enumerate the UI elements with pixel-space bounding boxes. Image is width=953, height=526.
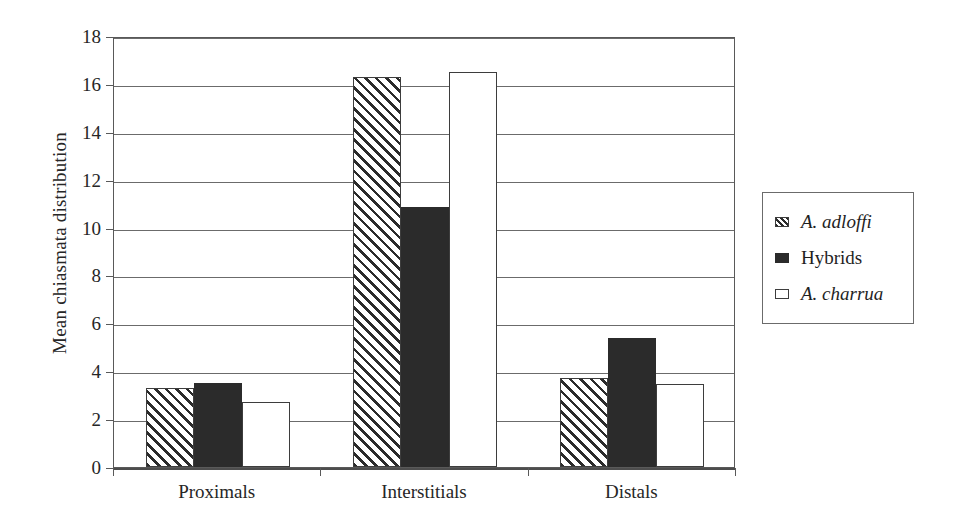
bar — [656, 384, 704, 467]
open-swatch-icon — [775, 289, 789, 299]
gridline — [114, 86, 734, 87]
bar — [449, 72, 497, 467]
bar — [560, 378, 608, 467]
chart-figure: Mean chiasmata distribution 024681012141… — [0, 0, 953, 526]
bar — [194, 383, 242, 467]
legend-item: A. adloffi — [775, 204, 903, 240]
legend-item: Hybrids — [775, 240, 903, 276]
hatched-swatch-icon — [775, 217, 789, 227]
y-axis-tick-mark — [106, 229, 113, 230]
y-axis-tick-label: 2 — [57, 410, 101, 429]
bar — [608, 338, 656, 467]
x-axis-tick-mark — [528, 468, 529, 476]
chart-legend: A. adloffiHybridsA. charrua — [762, 192, 914, 324]
y-axis-tick-label: 12 — [57, 171, 101, 190]
bar — [353, 77, 401, 467]
legend-item-label: A. adloffi — [801, 211, 872, 233]
y-axis-tick-mark — [106, 468, 113, 469]
x-axis-tick-mark — [113, 468, 114, 476]
plot-area — [113, 37, 735, 468]
x-axis-tick-label: Interstitials — [320, 481, 528, 503]
legend-item: A. charrua — [775, 276, 903, 312]
y-axis-tick-label: 8 — [57, 266, 101, 285]
legend-item-label: Hybrids — [801, 247, 862, 269]
y-axis-tick-label: 4 — [57, 362, 101, 381]
y-axis-tick-label: 16 — [57, 75, 101, 94]
y-axis-tick-label: 0 — [57, 458, 101, 477]
x-axis-tick-mark — [735, 468, 736, 476]
y-axis-tick-mark — [106, 133, 113, 134]
y-axis-tick-label: 18 — [57, 27, 101, 46]
y-axis-tick-mark — [106, 276, 113, 277]
y-axis-tick-mark — [106, 372, 113, 373]
bar — [146, 388, 194, 467]
solid-swatch-icon — [775, 253, 789, 263]
x-axis-tick-label: Proximals — [113, 481, 321, 503]
legend-item-label: A. charrua — [801, 283, 883, 305]
gridline — [114, 38, 734, 39]
y-axis-tick-mark — [106, 420, 113, 421]
y-axis-tick-label: 14 — [57, 123, 101, 142]
y-axis-tick-mark — [106, 181, 113, 182]
y-axis-tick-mark — [106, 37, 113, 38]
x-axis-tick-mark — [320, 468, 321, 476]
gridline — [114, 134, 734, 135]
y-axis-tick-label: 6 — [57, 314, 101, 333]
bar — [401, 207, 449, 467]
x-axis-line — [113, 468, 735, 470]
y-axis-tick-mark — [106, 85, 113, 86]
y-axis-tick-label: 10 — [57, 219, 101, 238]
y-axis-tick-mark — [106, 324, 113, 325]
gridline — [114, 182, 734, 183]
bar — [242, 402, 290, 467]
x-axis-tick-label: Distals — [527, 481, 735, 503]
